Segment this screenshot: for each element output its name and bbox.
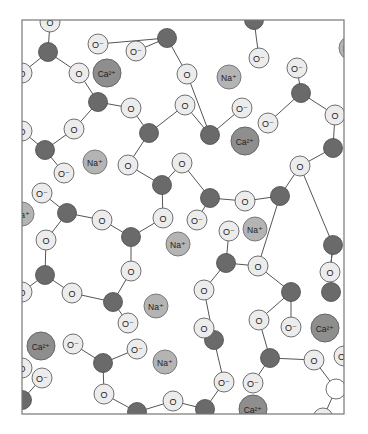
oxygen-atom: O	[172, 153, 192, 173]
silicon-atom	[158, 29, 177, 48]
sodium-ion: Na⁺	[144, 294, 168, 318]
sodium-ion: Na⁺	[339, 36, 363, 60]
oxygen-atom: O	[40, 12, 60, 32]
silicon-atom	[261, 349, 280, 368]
bond-line	[300, 166, 333, 245]
silicon-atom	[36, 266, 55, 285]
oxygen-atom: O	[175, 95, 195, 115]
oxygen-ion-label: O⁻	[253, 54, 265, 64]
oxygen-ion: O⁻	[32, 368, 52, 388]
sodium-ion: Na⁺	[83, 150, 107, 174]
sodium-ion-label: Na⁺	[148, 302, 164, 312]
oxygen-ion-label: O⁻	[218, 378, 230, 388]
oxygen-atom-label: O	[159, 214, 166, 224]
calcium-ion: Ca²⁺	[311, 314, 339, 342]
silicon-atom	[282, 283, 301, 302]
silicon-atom	[58, 204, 77, 223]
silicon-atom	[153, 176, 172, 195]
oxygen-atom-label: O	[42, 236, 49, 246]
oxygen-ion-label: O⁻	[58, 169, 70, 179]
soda-lime-glass-structure-diagram: OO⁻O⁻OOOOOOO⁻O⁻OO⁻O⁻OOOO⁻O⁻OOO⁻OOOOOO⁻OO…	[0, 0, 368, 434]
oxygen-ion: O⁻	[258, 113, 278, 133]
oxygen-atom-label: O	[75, 69, 82, 79]
calcium-ion-label: Ca²⁺	[316, 324, 335, 334]
silicon-atom	[292, 84, 311, 103]
silicon-atom	[324, 236, 343, 255]
calcium-ion: Ca²⁺	[27, 332, 55, 360]
oxygen-ion: O⁻	[249, 48, 269, 68]
oxygen-atom-empty	[326, 379, 346, 399]
oxygen-ion-label: O⁻	[122, 319, 134, 329]
oxygen-atom-label: O	[200, 324, 207, 334]
silicon-atom	[271, 187, 290, 206]
oxygen-ion: O⁻	[32, 183, 52, 203]
calcium-ion: Ca²⁺	[239, 395, 267, 423]
oxygen-atom-label: O	[183, 70, 190, 80]
oxygen-ion: O⁻	[281, 317, 301, 337]
oxygen-atom: O	[304, 350, 324, 370]
sodium-ion-label: Na⁺	[247, 225, 263, 235]
calcium-ion-label: Ca²⁺	[244, 405, 263, 415]
sodium-ion-label: Na⁺	[157, 358, 173, 368]
oxygen-atom: O	[118, 155, 138, 175]
oxygen-atom: O	[69, 63, 89, 83]
silicon-atom	[140, 124, 159, 143]
calcium-ion-label: Ca²⁺	[98, 69, 117, 79]
oxygen-ion: O⁻	[187, 210, 207, 230]
sodium-ion-label: Na⁺	[170, 240, 186, 250]
oxygen-atom-label: O	[310, 356, 317, 366]
oxygen-atom: O	[94, 384, 114, 404]
silicon-atom	[89, 93, 108, 112]
oxygen-ion: O⁻	[126, 41, 146, 61]
oxygen-atom: O	[36, 230, 56, 250]
oxygen-ion: O⁻	[63, 334, 83, 354]
oxygen-atom: O	[177, 64, 197, 84]
silicon-atom	[324, 139, 343, 158]
oxygen-ion: O⁻	[243, 373, 263, 393]
oxygen-ion: O⁻	[118, 313, 138, 333]
sodium-ion-label: Na⁺	[221, 73, 237, 83]
oxygen-ion: O⁻	[127, 339, 147, 359]
oxygen-ion-label: O⁻	[223, 227, 235, 237]
oxygen-atom-label: O	[127, 267, 134, 277]
silicon-atom	[322, 283, 341, 302]
oxygen-atom-label: O	[296, 162, 303, 172]
oxygen-atom-label: O	[181, 101, 188, 111]
sodium-ion: Na⁺	[243, 217, 267, 241]
oxygen-ion-label: O⁻	[291, 64, 303, 74]
silicon-atom	[94, 354, 113, 373]
oxygen-atom: O	[325, 105, 345, 125]
oxygen-atom: O	[92, 210, 112, 230]
oxygen-atom: O	[62, 283, 82, 303]
oxygen-ion-label: O⁻	[36, 189, 48, 199]
silicon-atom	[201, 126, 220, 145]
oxygen-atom-label: O	[124, 161, 131, 171]
oxygen-atom: O	[290, 156, 310, 176]
sodium-ion-label: Na⁺	[87, 158, 103, 168]
oxygen-ion-label: O⁻	[262, 119, 274, 129]
oxygen-atom: O	[121, 261, 141, 281]
oxygen-atom-label: O	[100, 390, 107, 400]
oxygen-atom-label: O	[68, 289, 75, 299]
oxygen-atom: O	[121, 98, 141, 118]
silicon-atom	[217, 254, 236, 273]
oxygen-atom: O	[249, 310, 269, 330]
oxygen-atom: O	[235, 191, 255, 211]
sodium-ion: Na⁺	[153, 350, 177, 374]
oxygen-atom-label: O	[70, 125, 77, 135]
silicon-atom	[201, 189, 220, 208]
sodium-ion: Na⁺	[217, 65, 241, 89]
oxygen-ion-label: O⁻	[247, 379, 259, 389]
silicon-atom	[39, 43, 58, 62]
silicon-atom	[128, 403, 147, 422]
oxygen-atom-label: O	[127, 104, 134, 114]
oxygen-ion-label: O⁻	[67, 340, 79, 350]
calcium-ion: Ca²⁺	[231, 127, 259, 155]
oxygen-ion-label: O⁻	[191, 216, 203, 226]
silicon-atom	[122, 228, 141, 247]
oxygen-ion-label: O⁻	[92, 40, 104, 50]
oxygen-atom: O	[320, 262, 340, 282]
oxygen-atom-label: O	[254, 262, 261, 272]
oxygen-atom-label: O	[178, 159, 185, 169]
sodium-ion-label: Na⁺	[343, 44, 359, 54]
